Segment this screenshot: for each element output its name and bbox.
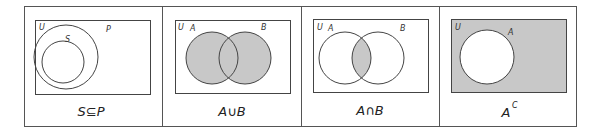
panel-subset: U S P S⊆P xyxy=(34,21,151,120)
panel-complement: U A A C xyxy=(452,20,567,121)
panel-intersection: U A B A∩B xyxy=(314,20,429,119)
universe-box xyxy=(36,21,151,95)
set-a-circle xyxy=(460,30,514,84)
universe-label: U xyxy=(317,23,323,32)
set-label-s: S xyxy=(65,35,70,44)
caption-base: A xyxy=(501,105,511,120)
universe-label: U xyxy=(178,23,184,32)
set-label-p: P xyxy=(106,25,111,34)
set-label-a: A xyxy=(327,24,333,33)
caption: S⊆P xyxy=(78,104,105,119)
set-label-b: B xyxy=(400,24,406,33)
set-label-a: A xyxy=(507,28,513,37)
caption-superscript: C xyxy=(512,101,518,110)
caption: A∪B xyxy=(217,104,245,119)
caption: A∩B xyxy=(355,103,383,118)
universe-label: U xyxy=(455,23,461,32)
universe-label: U xyxy=(39,23,45,32)
panel-union: U A B A∪B xyxy=(176,21,291,120)
set-label-b: B xyxy=(261,23,267,32)
venn-figure: U S P S⊆P U A B A∪B U A B A∩B U A A C xyxy=(0,0,595,137)
set-label-a: A xyxy=(189,24,195,33)
